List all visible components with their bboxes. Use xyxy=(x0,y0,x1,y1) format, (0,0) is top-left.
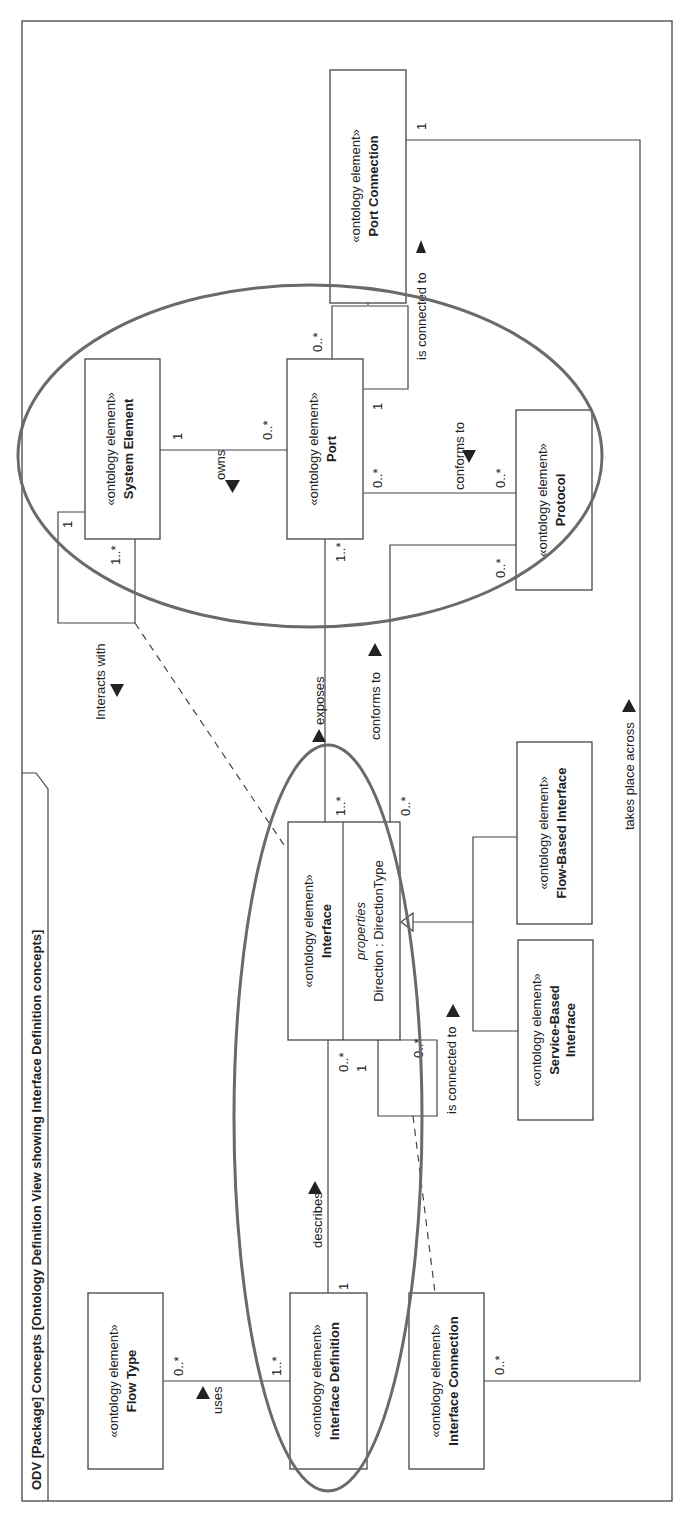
mult-uses-flow-type: 0..* xyxy=(171,1356,186,1376)
label-takes-place-across: takes place across xyxy=(622,722,637,830)
svg-text:Flow-Based Interface: Flow-Based Interface xyxy=(554,768,569,899)
label-uses: uses xyxy=(210,1386,225,1414)
box-port-connection[interactable]: «ontology element» Port Connection xyxy=(330,70,406,303)
svg-text:Interface Connection: Interface Connection xyxy=(446,1316,461,1445)
svg-text:Port: Port xyxy=(324,435,339,462)
svg-text:Flow Type: Flow Type xyxy=(124,1350,139,1413)
label-interface-is-connected-to: is connected to xyxy=(444,1027,459,1114)
box-protocol[interactable]: «ontology element» Protocol xyxy=(516,410,592,590)
label-exposes: exposes xyxy=(312,676,327,725)
svg-text:«ontology element»: «ontology element» xyxy=(348,129,363,242)
mult-port-self-top: 0..* xyxy=(310,332,325,352)
mult-interface-self-many: 0..* xyxy=(411,1038,426,1058)
svg-text:«ontology element»: «ontology element» xyxy=(306,392,321,505)
box-flow-type[interactable]: «ontology element» Flow Type xyxy=(88,1293,163,1469)
mult-exposes-port: 1..* xyxy=(333,542,348,562)
box-interface-definition[interactable]: «ontology element» Interface Definition xyxy=(290,1293,367,1469)
label-describes: describes xyxy=(310,1192,325,1248)
label-owns: owns xyxy=(213,449,228,480)
label-interacts-with: Interacts with xyxy=(93,643,108,720)
svg-text:Service-Based: Service-Based xyxy=(547,985,562,1075)
svg-text:«ontology element»: «ontology element» xyxy=(309,1324,324,1437)
mult-takes-place-interface-connection: 0..* xyxy=(492,1355,507,1375)
label-port-is-connected-to: is connected to xyxy=(414,273,429,360)
svg-text:«ontology element»: «ontology element» xyxy=(106,1324,121,1437)
mult-interface-conforms-interface: 0..* xyxy=(398,796,413,816)
mult-port-conforms-port: 0..* xyxy=(370,468,385,488)
svg-text:System Element: System Element xyxy=(121,398,136,499)
svg-text:Protocol: Protocol xyxy=(553,474,568,527)
mult-interacts-1-many: 1..* xyxy=(108,545,123,565)
label-port-conforms-to: conforms to xyxy=(452,422,467,490)
mult-port-self-bottom: 1 xyxy=(370,403,385,410)
svg-text:properties: properties xyxy=(353,902,368,961)
svg-text:«ontology element»: «ontology element» xyxy=(529,973,544,1086)
svg-text:«ontology element»: «ontology element» xyxy=(535,443,550,556)
mult-port-connection-1: 1 xyxy=(414,123,429,130)
mult-interacts-1: 1 xyxy=(60,521,75,528)
uml-diagram: ODV [Package] Concepts [Ontology Definit… xyxy=(0,0,697,1533)
box-interface-connection[interactable]: «ontology element» Interface Connection xyxy=(409,1293,484,1469)
svg-text:«ontology element»: «ontology element» xyxy=(301,874,316,987)
label-interface-conforms-to: conforms to xyxy=(368,672,383,740)
svg-text:Interface Definition: Interface Definition xyxy=(327,1322,342,1440)
mult-port-conforms-protocol: 0..* xyxy=(493,468,508,488)
svg-text:«ontology element»: «ontology element» xyxy=(536,776,551,889)
mult-describes-interface: 0..* xyxy=(336,1052,351,1072)
svg-text:Interface: Interface xyxy=(319,904,334,958)
frame-title: ODV [Package] Concepts [Ontology Definit… xyxy=(29,930,44,1490)
box-interface[interactable]: «ontology element» Interface properties … xyxy=(288,822,400,1040)
mult-exposes-interface: 1..* xyxy=(333,796,348,816)
mult-owns-port: 0..* xyxy=(260,420,275,440)
svg-text:«ontology element»: «ontology element» xyxy=(103,392,118,505)
box-service-based-interface[interactable]: «ontology element» Service-Based Interfa… xyxy=(518,940,593,1120)
mult-owns-system: 1 xyxy=(170,433,185,440)
mult-uses-definition: 1..* xyxy=(269,1356,284,1376)
box-flow-based-interface[interactable]: «ontology element» Flow-Based Interface xyxy=(517,742,592,924)
svg-text:Port Connection: Port Connection xyxy=(366,135,381,236)
svg-text:«ontology element»: «ontology element» xyxy=(428,1324,443,1437)
svg-text:Direction : DirectionType: Direction : DirectionType xyxy=(371,860,386,1002)
mult-describes-1-interface: 1 xyxy=(354,1065,369,1072)
mult-describes-definition: 1 xyxy=(336,1283,351,1290)
svg-text:Interface: Interface xyxy=(563,1003,578,1057)
box-system-element[interactable]: «ontology element» System Element xyxy=(85,359,160,539)
mult-interface-conforms-protocol: 0..* xyxy=(493,558,508,578)
box-port[interactable]: «ontology element» Port xyxy=(287,359,363,539)
